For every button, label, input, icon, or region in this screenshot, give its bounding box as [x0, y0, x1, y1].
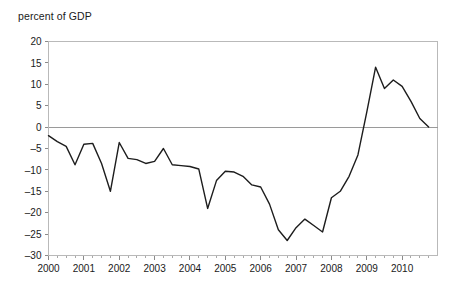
x-tick-label: 2003 — [143, 263, 166, 274]
x-tick-label: 2002 — [108, 263, 131, 274]
x-tick-label: 2001 — [73, 263, 96, 274]
x-tick-label: 2008 — [320, 263, 343, 274]
y-tick-label: 20 — [30, 36, 42, 47]
y-tick-label: 5 — [36, 100, 42, 111]
chart-container: percent of GDP 20151050–5–10–15–20–25–30… — [0, 0, 464, 282]
data-series-line — [49, 67, 429, 240]
x-axis-labels: 2000200120022003200420052006200720082009… — [37, 263, 413, 274]
y-axis-ticks — [45, 42, 49, 256]
y-tick-label: –25 — [25, 229, 42, 240]
y-tick-label: 10 — [30, 79, 42, 90]
x-tick-label: 2010 — [391, 263, 414, 274]
plot-frame — [49, 42, 438, 256]
y-tick-label: –10 — [25, 165, 42, 176]
y-tick-label: –15 — [25, 186, 42, 197]
x-tick-label: 2004 — [179, 263, 202, 274]
x-tick-label: 2007 — [285, 263, 308, 274]
y-tick-label: –20 — [25, 207, 42, 218]
x-tick-label: 2006 — [250, 263, 273, 274]
x-tick-label: 2009 — [356, 263, 379, 274]
x-tick-label: 2000 — [37, 263, 60, 274]
y-axis-labels: 20151050–5–10–15–20–25–30 — [25, 36, 42, 261]
y-tick-label: –30 — [25, 250, 42, 261]
x-tick-label: 2005 — [214, 263, 237, 274]
chart-plot-area: 20151050–5–10–15–20–25–30 20002001200220… — [0, 0, 464, 282]
y-tick-label: 15 — [30, 58, 42, 69]
y-tick-label: –5 — [30, 143, 42, 154]
y-tick-label: 0 — [36, 122, 42, 133]
